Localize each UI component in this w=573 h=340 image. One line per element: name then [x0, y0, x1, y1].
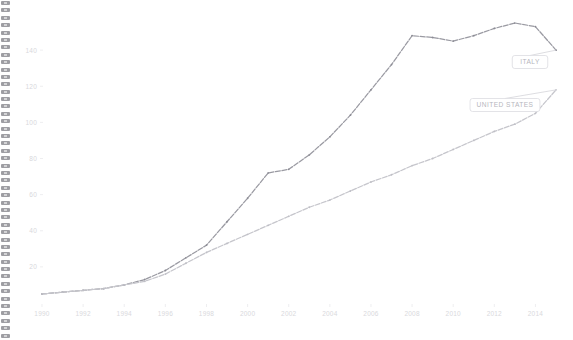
chart-page: 20406080100120140 1990199219941996199820… — [0, 0, 573, 340]
series-line-italy — [42, 23, 556, 294]
binding-ring-hole — [4, 91, 7, 93]
binding-ring-hole — [4, 24, 7, 26]
binding-ring — [1, 178, 10, 182]
binding-ring-hole — [4, 187, 7, 189]
binding-ring-hole — [4, 239, 7, 241]
binding-ring-hole — [4, 320, 7, 322]
y-tick-label: 80 — [29, 155, 37, 162]
binding-ring-hole — [4, 120, 7, 122]
binding-ring-hole — [4, 179, 7, 181]
x-tick-label: 2006 — [363, 310, 378, 317]
series-point — [308, 154, 310, 156]
binding-ring — [1, 8, 10, 12]
x-tick-label: 2014 — [528, 310, 543, 317]
binding-ring — [1, 171, 10, 175]
binding-ring — [1, 68, 10, 72]
x-tick-label: 2000 — [240, 310, 255, 317]
series-point — [247, 233, 249, 235]
binding-ring — [1, 1, 10, 5]
binding-ring — [1, 274, 10, 278]
binding-ring — [1, 267, 10, 271]
y-tick-label: 100 — [26, 119, 38, 126]
binding-ring-hole — [4, 312, 7, 314]
series-point — [329, 199, 331, 201]
binding-ring-hole — [4, 46, 7, 48]
series-point — [185, 262, 187, 264]
binding-ring — [1, 223, 10, 227]
series-point — [432, 37, 434, 39]
binding-ring — [1, 304, 10, 308]
series-point — [473, 35, 475, 37]
binding-ring — [1, 16, 10, 20]
binding-ring — [1, 238, 10, 242]
series-line-united-states — [42, 90, 556, 294]
binding-ring-hole — [4, 150, 7, 152]
y-tick-label: 20 — [29, 263, 37, 270]
y-tick-label: 40 — [29, 227, 37, 234]
binding-ring — [1, 201, 10, 205]
binding-ring — [1, 252, 10, 256]
callout-leader-line — [530, 50, 556, 55]
binding-ring — [1, 319, 10, 323]
series-point — [452, 149, 454, 151]
binding-ring-hole — [4, 275, 7, 277]
series-point — [267, 172, 269, 174]
series-point — [206, 252, 208, 254]
binding-ring-hole — [4, 253, 7, 255]
chart-series — [41, 22, 557, 295]
binding-ring — [1, 112, 10, 116]
series-point — [288, 168, 290, 170]
binding-ring-hole — [4, 246, 7, 248]
series-point — [103, 288, 105, 290]
x-tick-label: 2010 — [446, 310, 461, 317]
series-point — [391, 64, 393, 66]
series-point — [535, 26, 537, 28]
series-point — [350, 190, 352, 192]
series-point — [473, 140, 475, 142]
line-chart: 20406080100120140 1990199219941996199820… — [0, 0, 573, 340]
binding-ring — [1, 53, 10, 57]
chart-plot-area: 20406080100120140 1990199219941996199820… — [0, 0, 573, 340]
binding-ring-hole — [4, 142, 7, 144]
binding-ring — [1, 230, 10, 234]
x-tick-label: 1990 — [34, 310, 49, 317]
x-tick-label: 2004 — [322, 310, 337, 317]
y-axis-ticks: 20406080100120140 — [26, 47, 43, 271]
series-point — [493, 28, 495, 30]
binding-ring-hole — [4, 128, 7, 130]
binding-ring-hole — [4, 69, 7, 71]
binding-ring-hole — [4, 165, 7, 167]
series-point — [185, 257, 187, 259]
binding-ring-hole — [4, 135, 7, 137]
binding-ring — [1, 31, 10, 35]
series-point — [164, 270, 166, 272]
binding-ring — [1, 90, 10, 94]
binding-ring — [1, 60, 10, 64]
x-tick-label: 2008 — [404, 310, 419, 317]
binding-ring-hole — [4, 32, 7, 34]
series-point — [206, 244, 208, 246]
series-point — [82, 289, 84, 291]
x-tick-label: 1998 — [199, 310, 214, 317]
callout-label: UNITED STATES — [477, 101, 534, 108]
binding-ring-hole — [4, 283, 7, 285]
chart-callouts: ITALYUNITED STATES — [470, 50, 556, 111]
binding-ring-hole — [4, 2, 7, 4]
binding-ring-hole — [4, 105, 7, 107]
binding-ring — [1, 97, 10, 101]
series-point — [350, 114, 352, 116]
binding-ring — [1, 260, 10, 264]
series-point — [308, 206, 310, 208]
series-point — [411, 35, 413, 37]
series-point — [452, 40, 454, 42]
series-point — [535, 112, 537, 114]
binding-ring — [1, 193, 10, 197]
spiral-binding — [0, 0, 12, 340]
x-tick-label: 2012 — [487, 310, 502, 317]
binding-ring — [1, 75, 10, 79]
binding-ring — [1, 149, 10, 153]
binding-ring-hole — [4, 17, 7, 19]
series-point — [493, 131, 495, 133]
binding-ring — [1, 334, 10, 338]
binding-ring-hole — [4, 39, 7, 41]
